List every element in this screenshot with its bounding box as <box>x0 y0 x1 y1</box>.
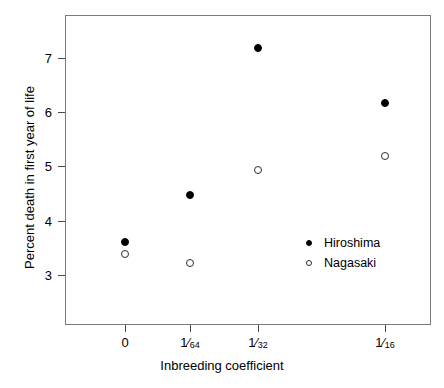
y-axis-tick-3 <box>58 275 65 276</box>
legend-open-circle-icon <box>306 260 312 266</box>
legend-filled-circle-icon <box>306 240 312 246</box>
data-point-nagasaki-3 <box>381 152 389 160</box>
y-axis-label-7: 7 <box>34 52 52 65</box>
legend-label-hiroshima: Hiroshima <box>324 233 380 253</box>
data-point-nagasaki-2 <box>254 166 262 174</box>
y-axis-label-3: 3 <box>34 269 52 282</box>
x-axis-tick-1-16 <box>385 325 386 332</box>
x-axis-tick-1-64 <box>190 325 191 332</box>
y-axis-label-4: 4 <box>34 215 52 228</box>
x-axis-label-1-16-denominator: 16 <box>385 340 395 350</box>
x-axis-label-1-64-numerator: 1 <box>180 335 187 350</box>
x-axis-label-1-16: 1⁄16 <box>375 336 394 351</box>
data-point-nagasaki-1 <box>186 259 194 267</box>
x-axis-label-1-64-denominator: 64 <box>190 340 200 350</box>
x-axis-tick-0 <box>125 325 126 332</box>
x-axis-label-1-64: 1⁄64 <box>180 336 199 351</box>
plot-area-frame <box>65 15 431 325</box>
x-axis-label-1-32-denominator: 32 <box>258 340 268 350</box>
y-axis-tick-5 <box>58 166 65 167</box>
y-axis-label-6: 6 <box>34 106 52 119</box>
x-axis-tick-1-32 <box>258 325 259 332</box>
x-axis-label-0: 0 <box>121 336 128 349</box>
data-point-hiroshima-1 <box>186 191 194 199</box>
x-axis-title: Inbreeding coefficient <box>0 358 444 373</box>
legend-label-nagasaki: Nagasaki <box>324 253 376 273</box>
y-axis-title: Percent death in first year of life <box>22 63 37 293</box>
data-point-hiroshima-3 <box>381 99 389 107</box>
y-axis-tick-7 <box>58 58 65 59</box>
data-point-hiroshima-0 <box>121 238 129 246</box>
data-point-nagasaki-0 <box>121 250 129 258</box>
scatter-plot-figure: 7 6 5 4 3 0 1⁄64 1⁄32 1⁄16 Inbreeding co… <box>0 0 444 388</box>
x-axis-label-1-32-numerator: 1 <box>248 335 255 350</box>
data-point-hiroshima-2 <box>254 44 262 52</box>
y-axis-tick-6 <box>58 112 65 113</box>
y-axis-tick-4 <box>58 221 65 222</box>
x-axis-label-1-16-numerator: 1 <box>375 335 382 350</box>
y-axis-label-5: 5 <box>34 160 52 173</box>
x-axis-label-1-32: 1⁄32 <box>248 336 267 351</box>
